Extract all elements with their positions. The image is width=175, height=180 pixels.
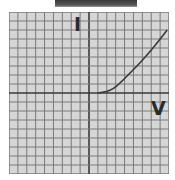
x-axis-label: V	[151, 99, 166, 118]
iv-graph	[9, 12, 169, 174]
top-bar	[55, 0, 137, 7]
graph-grid	[9, 12, 169, 174]
y-axis-label: I	[74, 15, 81, 34]
